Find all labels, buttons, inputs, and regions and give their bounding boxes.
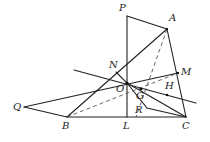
segment-PA: [127, 16, 167, 29]
point-M: [177, 72, 179, 74]
geometry-diagram: P A N M O G H Q B R L C: [0, 0, 210, 142]
dashed-BM: [67, 73, 178, 117]
line-through-O-H: [74, 70, 196, 103]
label-O: O: [116, 84, 124, 94]
segment-QB: [24, 107, 67, 117]
label-L: L: [123, 121, 130, 131]
label-B: B: [62, 121, 69, 131]
label-R: R: [135, 105, 143, 115]
point-O: [125, 81, 128, 84]
label-A: A: [169, 13, 176, 23]
label-M: M: [181, 67, 191, 77]
label-C: C: [182, 121, 190, 131]
point-A: [166, 28, 168, 30]
point-H: [166, 94, 168, 96]
label-P: P: [119, 3, 126, 13]
label-N: N: [109, 60, 118, 70]
label-H: H: [165, 81, 174, 91]
segment-QM: [24, 73, 178, 107]
label-G: G: [136, 91, 144, 101]
label-Q: Q: [13, 102, 21, 112]
diagram-figure: [0, 0, 210, 142]
